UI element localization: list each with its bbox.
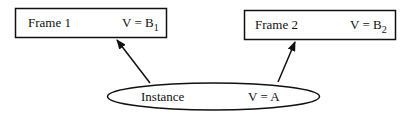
frame-1-label: Frame 1 [28,15,71,30]
frame-2-value-subscript: 2 [382,24,387,35]
arrow-instance-to-frame-2 [278,42,295,82]
frame-1-value-subscript: 1 [154,22,159,33]
frame-2-value-prefix: V = B [350,17,382,32]
instance-label: Instance [141,89,185,104]
frame-1-value-prefix: V = B [122,15,154,30]
frame-2-label: Frame 2 [255,17,298,32]
instance-ellipse [108,83,320,110]
frame-instance-diagram: Frame 1 V = B1 Frame 2 V = B2 Instance V… [0,0,409,114]
instance-node: Instance V = A [108,83,320,110]
frame-1-node: Frame 1 V = B1 [16,9,167,38]
frame-2-node: Frame 2 V = B2 [245,11,396,40]
instance-value: V = A [248,89,280,104]
arrow-instance-to-frame-1 [117,40,150,83]
